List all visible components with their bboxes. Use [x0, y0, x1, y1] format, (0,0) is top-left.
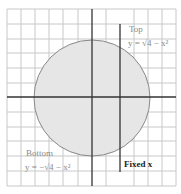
fixed-x-label: Fixed x: [124, 159, 153, 169]
top-equation-label: y = √4 − x²: [128, 38, 169, 48]
bottom-title-label: Bottom: [26, 148, 53, 158]
top-title-label: Top: [129, 24, 143, 34]
bottom-equation-label: y = −√4 − x²: [25, 162, 71, 172]
disk-diagram: Top y = √4 − x² Bottom y = −√4 − x² Fixe…: [0, 0, 181, 194]
